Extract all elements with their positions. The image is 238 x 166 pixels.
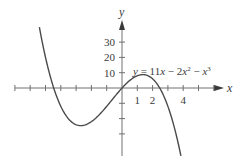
y-tick-label: 20	[104, 51, 116, 63]
x-tick-label: 1	[135, 94, 141, 106]
y-tick-label: 10	[104, 67, 116, 79]
cubic-function-graph: 124 x 102030 y y = 11x − 2x2 − x3	[0, 0, 238, 166]
y-axis-arrow-icon	[119, 20, 125, 30]
y-axis: 102030 y	[104, 5, 125, 156]
x-tick-label: 2	[150, 94, 156, 106]
x-axis-tick-labels: 124	[135, 94, 187, 106]
y-axis-label: y	[118, 5, 125, 19]
x-axis-label: x	[226, 81, 233, 95]
function-equation-label: y = 11x − 2x2 − x3	[132, 65, 211, 77]
x-axis: 124 x	[15, 81, 233, 106]
x-tick-label: 4	[180, 94, 186, 106]
y-tick-label: 30	[104, 36, 116, 48]
x-axis-arrow-icon	[214, 85, 224, 91]
y-axis-tick-labels: 102030	[104, 36, 116, 79]
